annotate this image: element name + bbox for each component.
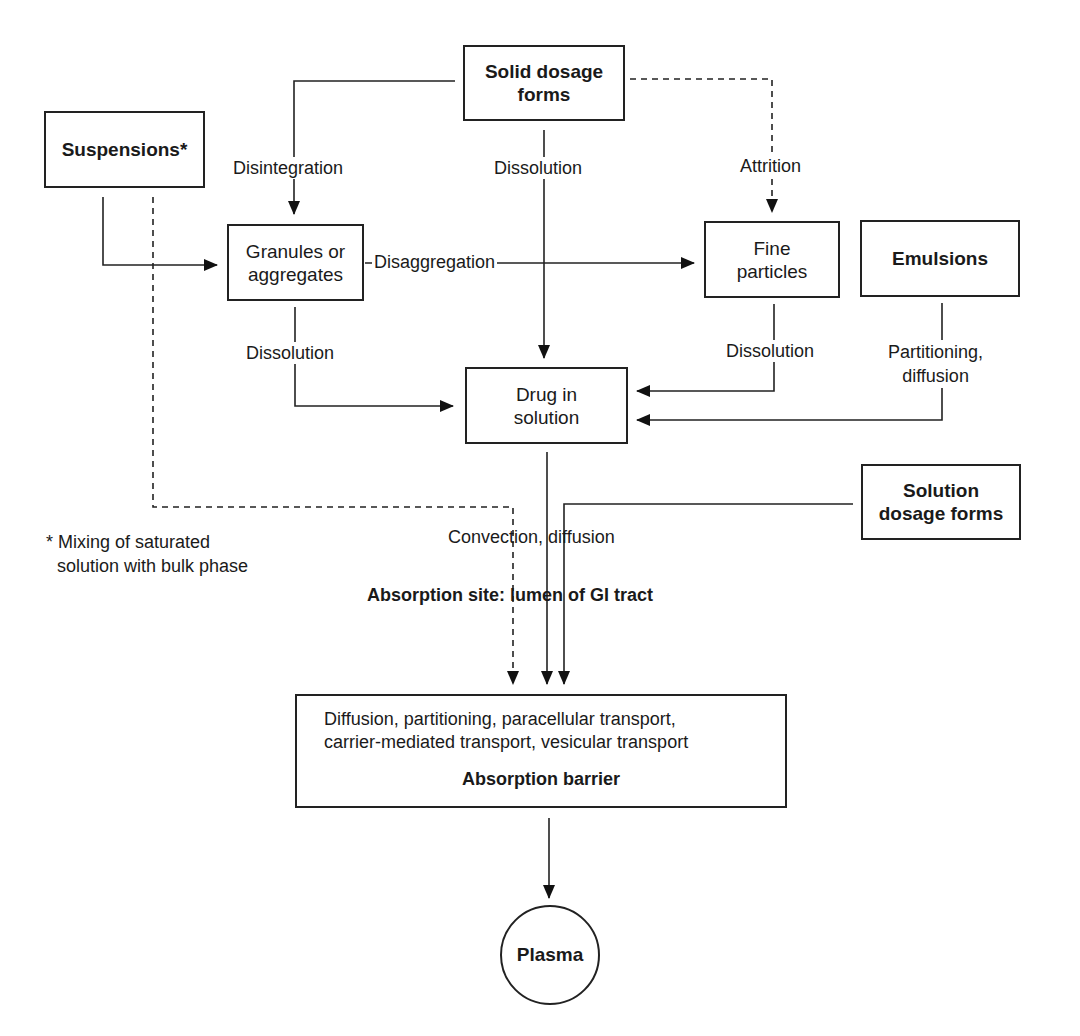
node-label: Solid dosage forms: [479, 60, 609, 106]
node-label: Drug in solution: [507, 383, 587, 429]
label-convection: Convection, diffusion: [448, 526, 615, 548]
edge-disintegration: [294, 81, 455, 214]
node-granules: Granules or aggregates: [227, 224, 364, 301]
region-label-absorption-site: Absorption site: lumen of GI tract: [367, 584, 653, 606]
node-fine-particles: Fine particles: [704, 221, 840, 298]
footnote: * Mixing of saturated solution with bulk…: [46, 530, 248, 578]
node-label: Granules or aggregates: [241, 240, 351, 286]
node-solid-dosage-forms: Solid dosage forms: [463, 45, 625, 121]
node-drug-in-solution: Drug in solution: [465, 367, 628, 444]
node-suspensions: Suspensions*: [44, 111, 205, 188]
label-dissolution-fine: Dissolution: [724, 340, 816, 362]
node-solution-dosage-forms: Solution dosage forms: [861, 464, 1021, 540]
node-label: Suspensions*: [62, 138, 188, 161]
footnote-line1: * Mixing of saturated: [46, 530, 248, 554]
label-disaggregation: Disaggregation: [372, 251, 497, 273]
node-label: Solution dosage forms: [871, 479, 1011, 525]
footnote-line2: solution with bulk phase: [46, 554, 248, 578]
barrier-title: Absorption barrier: [297, 768, 785, 791]
barrier-mechanisms: Diffusion, partitioning, paracellular tr…: [324, 708, 688, 754]
label-partitioning: Partitioning, diffusion: [886, 340, 985, 388]
node-label: Fine particles: [732, 237, 812, 283]
barrier-mechanisms-line2: carrier-mediated transport, vesicular tr…: [324, 731, 688, 754]
label-dissolution-solid: Dissolution: [492, 157, 584, 179]
label-dissolution-granules: Dissolution: [244, 342, 336, 364]
edge-suspensions-granules: [103, 197, 217, 265]
label-disintegration: Disintegration: [231, 157, 345, 179]
barrier-mechanisms-line1: Diffusion, partitioning, paracellular tr…: [324, 708, 688, 731]
node-label: Plasma: [517, 944, 584, 966]
node-label: Emulsions: [892, 247, 988, 270]
node-emulsions: Emulsions: [860, 220, 1020, 297]
edge-attrition: [630, 79, 772, 212]
label-attrition: Attrition: [738, 155, 803, 177]
node-plasma: Plasma: [500, 905, 600, 1005]
node-absorption-barrier: Diffusion, partitioning, paracellular tr…: [295, 694, 787, 808]
label-partitioning-line1: Partitioning,: [888, 340, 983, 364]
label-partitioning-line2: diffusion: [888, 364, 983, 388]
